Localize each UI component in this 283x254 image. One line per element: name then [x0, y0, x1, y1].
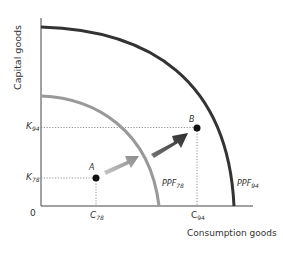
k94-sub: 94 [32, 125, 40, 132]
c78-sub: 78 [96, 214, 104, 221]
point-a [93, 175, 100, 182]
origin-label: 0 [30, 208, 36, 218]
c78-label: C78 [90, 210, 104, 221]
point-b-label: B [189, 115, 195, 124]
c94-sub: 94 [197, 214, 205, 221]
x-axis-label: Consumption goods [187, 228, 277, 238]
ppf78-curve [41, 96, 159, 206]
y-axis-label: Capital goods [12, 23, 23, 93]
k78-label: K78 [26, 172, 40, 183]
ppf94-main: PPF [237, 179, 251, 188]
c94-label: C94 [191, 210, 205, 221]
ppf94-sub: 94 [251, 182, 259, 189]
ppf94-label: PPF94 [237, 179, 259, 189]
ppf-diagram [0, 0, 283, 254]
point-b [194, 125, 201, 132]
ppf78-main: PPF [162, 179, 176, 188]
ppf94-curve [41, 27, 234, 206]
ppf78-sub: 78 [176, 182, 184, 189]
ppf78-label: PPF78 [162, 179, 184, 189]
k78-sub: 78 [32, 176, 40, 183]
point-a-label: A [89, 163, 94, 172]
k94-label: K94 [26, 121, 40, 132]
arrow-dark [151, 133, 188, 158]
arrow-light [104, 156, 139, 175]
